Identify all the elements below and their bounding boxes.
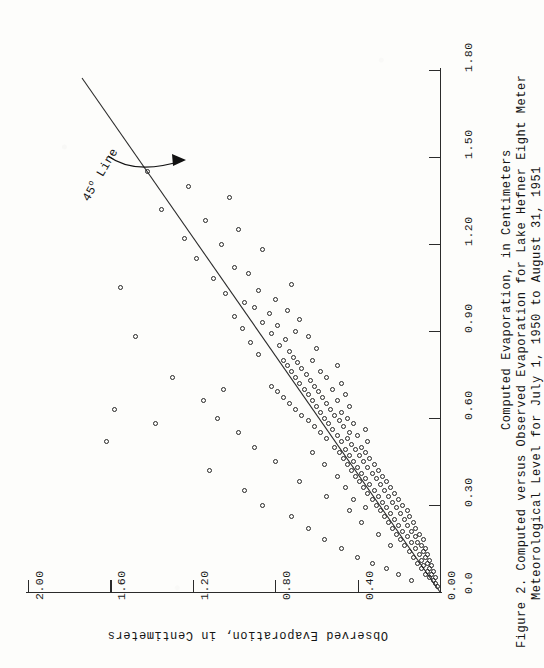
scatter-point xyxy=(361,459,366,464)
scatter-point xyxy=(396,497,401,502)
scatter-point xyxy=(380,474,385,479)
scatter-point xyxy=(306,418,311,423)
scatter-point xyxy=(396,572,401,577)
scatter-point xyxy=(417,532,422,537)
scatter-point xyxy=(339,381,344,386)
scatter-point xyxy=(365,491,370,496)
scatter-point xyxy=(304,372,309,377)
scatter-point xyxy=(394,532,399,537)
scatter-point xyxy=(295,360,300,365)
scatter-point xyxy=(335,398,340,403)
scatter-point xyxy=(372,488,377,493)
scatter-point xyxy=(370,561,375,566)
scatter-point xyxy=(207,468,212,473)
scatter-point xyxy=(322,462,327,467)
scatter-point xyxy=(413,526,418,531)
scatter-point xyxy=(277,343,282,348)
scatter-point xyxy=(378,482,383,487)
x-axis-tick xyxy=(429,592,441,593)
scatter-point xyxy=(335,474,340,479)
scatter-point xyxy=(376,532,381,537)
x-axis-tick-label: 0.0 xyxy=(462,572,475,594)
scatter-point xyxy=(431,569,436,574)
scatter-point xyxy=(427,558,432,563)
scatter-point xyxy=(359,520,364,525)
scatter-point xyxy=(347,430,352,435)
scatter-point xyxy=(293,407,298,412)
scatter-point xyxy=(335,363,340,368)
scatter-point xyxy=(370,497,375,502)
scatter-point xyxy=(221,387,226,392)
scatter-point xyxy=(372,462,377,467)
scatter-point xyxy=(275,389,280,394)
scatter-point xyxy=(275,323,280,328)
y-axis-tick-label: 0.00 xyxy=(445,570,458,600)
scatter-point xyxy=(390,500,395,505)
scatter-point xyxy=(236,227,241,232)
scatter-point xyxy=(159,207,164,212)
scatter-point xyxy=(326,421,331,426)
scatter-point xyxy=(335,433,340,438)
scatter-point xyxy=(312,384,317,389)
scatter-point xyxy=(361,485,366,490)
scatter-point xyxy=(287,349,292,354)
scatter-point xyxy=(388,511,393,516)
x-axis-title: Computed Evaporation, in Centimeters xyxy=(500,149,514,430)
scatter-point xyxy=(291,355,296,360)
scatter-point xyxy=(256,352,261,357)
scatter-point xyxy=(320,395,325,400)
scatter-point xyxy=(299,366,304,371)
scatter-point xyxy=(293,329,298,334)
y-axis-tick-label: 1.20 xyxy=(198,570,211,600)
scatter-point xyxy=(347,453,352,458)
y-axis-tick xyxy=(193,580,194,593)
scatter-point xyxy=(203,218,208,223)
scatter-point xyxy=(409,540,414,545)
scatter-point xyxy=(363,476,368,481)
scatter-point xyxy=(153,421,158,426)
x-axis-tick-label: 0.90 xyxy=(462,303,475,333)
forty-five-degree-label-tail: Line xyxy=(90,146,121,186)
scatter-point xyxy=(219,242,224,247)
scatter-point xyxy=(341,424,346,429)
scatter-point xyxy=(223,291,228,296)
scatter-point xyxy=(386,520,391,525)
y-axis-tick-label: 1.60 xyxy=(115,570,128,600)
scatter-point xyxy=(355,555,360,560)
scatter-point xyxy=(182,236,187,241)
scatter-point xyxy=(382,488,387,493)
scatter-point xyxy=(374,503,379,508)
scatter-point xyxy=(306,526,311,531)
scatter-point xyxy=(370,471,375,476)
y-axis-tick-label: 0.80 xyxy=(280,570,293,600)
scatter-point xyxy=(227,195,232,200)
scatter-point xyxy=(365,439,370,444)
scatter-point xyxy=(365,465,370,470)
scatter-point xyxy=(343,447,348,452)
scatter-point xyxy=(285,308,290,313)
scatter-point xyxy=(363,505,368,510)
scatter-point xyxy=(269,384,274,389)
forty-five-degree-label: 45o Line xyxy=(78,145,121,204)
scatter-point xyxy=(400,529,405,534)
scatter-point xyxy=(273,297,278,302)
scatter-point xyxy=(405,508,410,513)
scatter-point xyxy=(260,320,265,325)
scatter-point xyxy=(341,456,346,461)
scatter-point xyxy=(186,184,191,189)
scatter-point xyxy=(322,416,327,421)
scatter-point xyxy=(353,474,358,479)
scatter-point xyxy=(388,485,393,490)
scatter-point xyxy=(390,526,395,531)
scatter-point xyxy=(318,369,323,374)
x-axis-tick xyxy=(429,244,441,245)
scatter-point xyxy=(285,363,290,368)
scatter-point xyxy=(232,265,237,270)
scatter-point xyxy=(240,326,245,331)
scatter-point xyxy=(367,482,372,487)
scatter-point xyxy=(343,392,348,397)
scatter-point xyxy=(145,169,150,174)
annotation-arrow xyxy=(108,156,184,167)
scatter-point xyxy=(293,375,298,380)
scatter-point xyxy=(339,410,344,415)
